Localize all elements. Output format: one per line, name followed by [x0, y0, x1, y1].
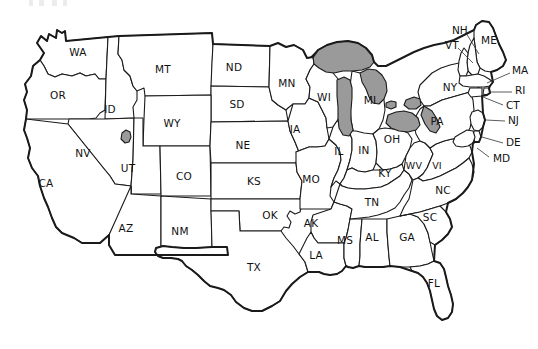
cropped-header-artifact [26, 0, 70, 6]
state-label-SD: SD [229, 98, 244, 110]
state-label-AK: AK [304, 217, 319, 229]
lake-michigan [337, 77, 353, 136]
state-FL[interactable] [410, 261, 453, 320]
state-label-IA: IA [290, 123, 301, 135]
state-label-MI: MI [364, 94, 377, 106]
great-salt-lake [121, 130, 131, 143]
state-label-WA: WA [69, 46, 87, 58]
callout-label-CT: CT [506, 99, 520, 111]
state-VT[interactable] [458, 48, 468, 76]
state-label-LA: LA [309, 249, 323, 261]
lake-superior [311, 41, 374, 73]
state-label-OR: OR [50, 89, 66, 101]
us-states-map: WAORIDMTNDSDWYNVUTCONEKSCAAZNMOKTXMNIAMO… [0, 0, 538, 349]
state-CT[interactable] [468, 88, 482, 97]
callout-label-DE: DE [506, 136, 521, 148]
state-label-GA: GA [399, 231, 415, 243]
state-label-CO: CO [176, 170, 192, 182]
leader-line-MA [487, 73, 510, 83]
state-label-ND: ND [226, 61, 242, 73]
state-label-MO: MO [302, 173, 320, 185]
us-map-container: WAORIDMTNDSDWYNVUTCONEKSCAAZNMOKTXMNIAMO… [0, 0, 538, 349]
state-label-NV: NV [75, 147, 91, 159]
callout-label-NH: NH [452, 24, 468, 36]
state-label-SC: SC [423, 211, 437, 223]
leader-line-NJ [486, 120, 505, 121]
state-label-KY: KY [378, 167, 392, 179]
state-label-NE: NE [236, 139, 251, 151]
state-label-NY: NY [443, 81, 458, 93]
state-label-WI: WI [317, 91, 331, 103]
callout-label-VT: VT [445, 39, 459, 51]
state-label-OK: OK [262, 209, 278, 221]
state-label-IN: IN [358, 144, 369, 156]
state-label-PA: PA [430, 115, 444, 127]
callout-label-NJ: NJ [508, 114, 519, 126]
state-label-WV: WV [406, 160, 423, 171]
lake-ontario [404, 97, 421, 109]
state-label-FL: FL [428, 277, 440, 289]
state-label-MN: MN [278, 77, 295, 89]
state-label-MS: MS [337, 234, 353, 246]
callout-label-RI: RI [515, 84, 525, 96]
callout-label-MD: MD [493, 152, 510, 164]
state-label-CA: CA [39, 177, 55, 189]
state-label-WY: WY [163, 117, 181, 129]
state-label-ME: ME [481, 34, 497, 46]
leader-line-MD [477, 148, 489, 157]
leader-line-DE [482, 137, 503, 143]
state-label-MT: MT [155, 63, 171, 75]
state-label-UT: UT [121, 162, 136, 174]
state-label-TN: TN [364, 196, 380, 208]
state-label-IL: IL [334, 145, 343, 157]
state-label-AZ: AZ [119, 222, 134, 234]
state-label-ID: ID [104, 103, 116, 115]
state-label-KS: KS [247, 175, 261, 187]
lake-st-clair [386, 101, 396, 109]
leader-line-CT [483, 97, 503, 105]
state-label-OH: OH [384, 133, 401, 145]
state-label-VI: VI [432, 160, 442, 171]
state-shapes [24, 21, 506, 320]
state-label-NC: NC [435, 184, 451, 196]
state-MA[interactable] [459, 74, 493, 87]
state-label-NM: NM [171, 225, 188, 237]
callout-label-MA: MA [512, 64, 529, 76]
state-label-TX: TX [246, 261, 261, 273]
state-NE[interactable] [210, 121, 299, 163]
state-label-AL: AL [365, 231, 378, 243]
state-AL[interactable] [359, 219, 390, 267]
